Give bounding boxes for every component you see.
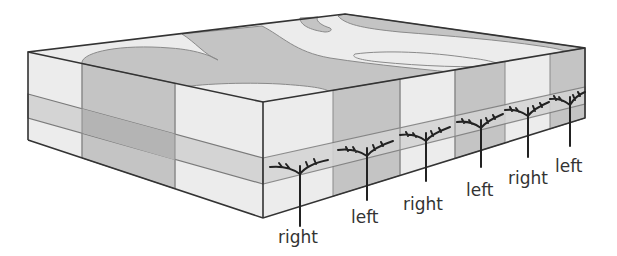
label-left-1: left [351,207,379,227]
block-diagram: right left right left right left [0,0,617,256]
label-left-2: left [466,180,494,200]
label-right-1: right [278,227,318,247]
label-right-2: right [403,194,443,214]
label-right-3: right [508,168,548,188]
label-left-3: left [555,156,583,176]
